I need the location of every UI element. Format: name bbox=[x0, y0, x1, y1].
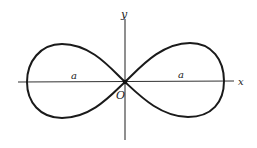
origin-label: O bbox=[116, 89, 125, 102]
x-axis-label: x bbox=[238, 76, 244, 87]
origin-point bbox=[123, 80, 127, 84]
y-axis-label: y bbox=[120, 8, 128, 21]
right-segment-label: a bbox=[178, 69, 184, 80]
left-segment-label: a bbox=[71, 70, 77, 81]
lemniscate-diagram: y x O a a bbox=[0, 0, 257, 148]
